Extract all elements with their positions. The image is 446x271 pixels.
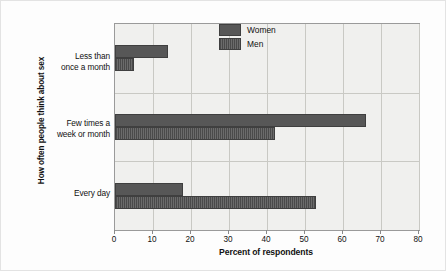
x-tick-label: 10	[137, 235, 167, 244]
x-tick-label: 60	[327, 235, 357, 244]
bar-women-0	[115, 45, 168, 58]
chart-legend: Women Men	[219, 23, 276, 51]
bar-women-2	[115, 183, 183, 196]
bar-men-1	[115, 127, 275, 140]
category-label-0-line-0: Less than	[75, 51, 110, 61]
x-axis-ticks: 01020304050607080	[114, 230, 418, 246]
category-label-1: Few times a week or month	[26, 118, 110, 139]
x-tick-label: 30	[213, 235, 243, 244]
category-label-1-line-1: week or month	[57, 129, 110, 139]
x-tick-label: 40	[251, 235, 281, 244]
legend-label-women: Women	[247, 25, 276, 35]
horizontal-gridline	[115, 161, 419, 162]
x-tick-label: 0	[99, 235, 129, 244]
category-label-2: Every day	[26, 188, 110, 199]
legend-swatch-women	[219, 24, 241, 36]
chart-figure: How often people think about sex Less th…	[0, 0, 446, 271]
bar-men-0	[115, 58, 134, 71]
x-tick-label: 80	[403, 235, 433, 244]
x-tick-mark	[342, 230, 343, 234]
x-axis-title: Percent of respondents	[114, 247, 418, 257]
category-axis-labels: Less than once a month Few times a week …	[26, 21, 110, 229]
x-tick-label: 70	[365, 235, 395, 244]
x-tick-mark	[266, 230, 267, 234]
bar-women-1	[115, 114, 366, 127]
legend-label-men: Men	[247, 39, 263, 49]
category-label-1-line-0: Few times a	[66, 118, 110, 128]
vertical-gridline	[343, 24, 344, 230]
x-tick-mark	[380, 230, 381, 234]
plot-area	[114, 23, 420, 231]
horizontal-gridline	[115, 93, 419, 94]
vertical-gridline	[381, 24, 382, 230]
x-tick-label: 50	[289, 235, 319, 244]
category-label-0-line-1: once a month	[61, 62, 110, 72]
x-tick-mark	[152, 230, 153, 234]
x-tick-mark	[304, 230, 305, 234]
legend-swatch-men	[219, 38, 241, 50]
x-tick-mark	[418, 230, 419, 234]
x-tick-mark	[114, 230, 115, 234]
vertical-gridline	[419, 24, 420, 230]
x-tick-mark	[228, 230, 229, 234]
category-label-0: Less than once a month	[26, 51, 110, 72]
x-tick-mark	[190, 230, 191, 234]
category-label-2-line-0: Every day	[74, 188, 110, 198]
x-tick-label: 20	[175, 235, 205, 244]
legend-item-men: Men	[219, 37, 276, 51]
legend-item-women: Women	[219, 23, 276, 37]
bar-men-2	[115, 196, 316, 209]
